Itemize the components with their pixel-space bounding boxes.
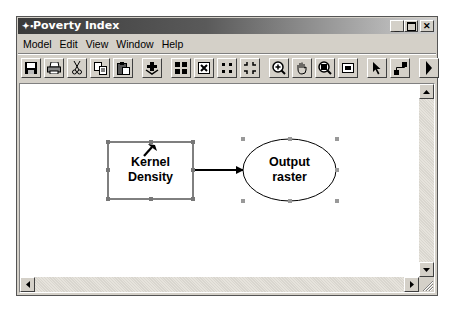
zoom-in-fixed-icon xyxy=(221,62,233,74)
menu-separator xyxy=(18,53,436,55)
overview-button[interactable] xyxy=(338,58,358,78)
print-button[interactable] xyxy=(44,58,64,78)
output-raster-label: Output raster xyxy=(243,155,336,185)
menu-model[interactable]: Model xyxy=(19,36,56,52)
kernel-density-label-line2: Density xyxy=(108,170,193,185)
output-raster-label-line2: raster xyxy=(243,170,336,185)
zoom-icon xyxy=(318,61,332,75)
full-extent-button[interactable] xyxy=(194,58,214,78)
diagram-layer xyxy=(21,85,419,277)
kernel-density-label-line1: Kernel xyxy=(108,155,193,170)
copy-icon xyxy=(94,62,107,75)
cut-icon xyxy=(72,61,82,75)
add-data-icon xyxy=(145,61,159,75)
overview-icon xyxy=(342,63,354,73)
scroll-down-button[interactable] xyxy=(419,262,434,277)
window-title: Poverty Index xyxy=(33,19,119,33)
zoom-out-fixed-icon xyxy=(244,62,256,74)
pan-icon xyxy=(295,61,309,75)
window-controls: _ ✕ xyxy=(390,20,434,32)
arrow-down-icon xyxy=(423,268,430,272)
horizontal-scrollbar[interactable] xyxy=(20,277,419,292)
maximize-icon xyxy=(407,22,416,31)
arrow-right-icon xyxy=(410,281,414,288)
zoom-button[interactable] xyxy=(315,58,335,78)
model-icon: ✦▪ xyxy=(22,21,33,31)
select-icon xyxy=(372,62,382,75)
menu-window[interactable]: Window xyxy=(112,36,157,52)
vertical-scrollbar[interactable] xyxy=(419,84,434,277)
zoom-out-fixed-button[interactable] xyxy=(240,58,260,78)
select-button[interactable] xyxy=(367,58,387,78)
connect-icon xyxy=(394,62,407,75)
scroll-right-button[interactable] xyxy=(404,277,419,292)
scroll-left-button[interactable] xyxy=(20,277,35,292)
paste-button[interactable] xyxy=(113,58,133,78)
close-button[interactable]: ✕ xyxy=(420,20,434,32)
resize-grip[interactable] xyxy=(419,277,434,292)
pan-button[interactable] xyxy=(292,58,312,78)
output-raster-label-line1: Output xyxy=(243,155,336,170)
menu-help[interactable]: Help xyxy=(158,36,188,52)
zoom-in-button[interactable] xyxy=(269,58,289,78)
menu-bar: Model Edit View Window Help xyxy=(19,36,187,52)
connect-button[interactable] xyxy=(390,58,410,78)
zoom-in-fixed-button[interactable] xyxy=(217,58,237,78)
menu-view[interactable]: View xyxy=(82,36,113,52)
maximize-button[interactable] xyxy=(404,20,418,32)
model-canvas[interactable]: Kernel Density Output raster xyxy=(21,85,419,277)
copy-button[interactable] xyxy=(90,58,110,78)
full-extent-icon xyxy=(198,62,210,74)
cut-button[interactable] xyxy=(67,58,87,78)
menu-edit[interactable]: Edit xyxy=(56,36,82,52)
model-canvas-frame: Kernel Density Output raster xyxy=(19,83,435,293)
resize-grip-icon xyxy=(419,277,434,292)
minimize-icon: _ xyxy=(394,24,399,33)
add-data-button[interactable] xyxy=(142,58,162,78)
kernel-density-label: Kernel Density xyxy=(108,155,193,185)
print-icon xyxy=(47,62,61,74)
save-icon xyxy=(25,62,37,74)
run-icon xyxy=(425,61,433,75)
paste-icon xyxy=(117,62,130,75)
arrow-left-icon xyxy=(26,281,30,288)
auto-layout-icon xyxy=(175,62,187,74)
arrow-up-icon xyxy=(423,90,430,94)
run-button[interactable] xyxy=(419,58,439,78)
minimize-button[interactable]: _ xyxy=(390,20,404,32)
zoom-in-icon xyxy=(272,61,286,75)
scroll-up-button[interactable] xyxy=(419,84,434,99)
close-icon: ✕ xyxy=(423,22,431,31)
model-builder-window: ✦▪ Poverty Index _ ✕ Model Edit View Win… xyxy=(16,16,438,296)
save-button[interactable] xyxy=(21,58,41,78)
toolbar xyxy=(21,56,442,80)
auto-layout-button[interactable] xyxy=(171,58,191,78)
title-bar[interactable]: ✦▪ Poverty Index _ ✕ xyxy=(18,18,436,34)
